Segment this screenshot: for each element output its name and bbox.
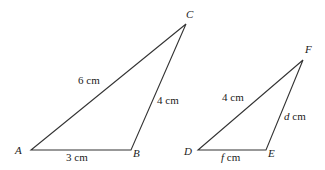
vertex-e-label: E xyxy=(267,147,275,159)
triangle-def: D E F 4 cm d cm f cm xyxy=(183,43,312,163)
vertex-f-label: F xyxy=(304,43,312,55)
side-ac-label: 6 cm xyxy=(78,74,100,86)
triangle-def-shape xyxy=(198,60,303,150)
triangle-abc-shape xyxy=(31,24,186,150)
vertex-a-label: A xyxy=(14,144,22,156)
vertex-c-label: C xyxy=(186,8,194,20)
side-df-label: 4 cm xyxy=(222,91,244,103)
vertex-d-label: D xyxy=(183,145,192,157)
side-ef-unit: cm xyxy=(290,110,307,122)
side-ab-label: 3 cm xyxy=(66,151,88,163)
side-de-label: f cm xyxy=(221,151,241,163)
side-ef-label: d cm xyxy=(284,110,306,122)
side-bc-label: 4 cm xyxy=(157,94,179,106)
vertex-b-label: B xyxy=(133,147,140,159)
side-de-unit: cm xyxy=(224,151,241,163)
triangle-abc: A B C 6 cm 4 cm 3 cm xyxy=(14,8,194,163)
similar-triangles-diagram: A B C 6 cm 4 cm 3 cm D E F 4 cm d cm f c… xyxy=(0,0,325,170)
